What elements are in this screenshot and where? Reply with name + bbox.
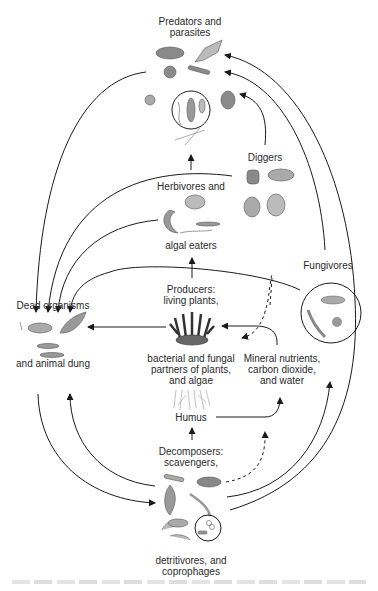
arrow-predators-to-dead bbox=[36, 72, 146, 312]
animal-dung-label: and animal dung bbox=[16, 358, 90, 369]
minerals-label: Mineral nutrients, carbon dioxide, and w… bbox=[244, 353, 321, 386]
herbivores-label-bottom: algal eaters bbox=[165, 240, 217, 251]
fungivores-illustration bbox=[301, 283, 361, 343]
arrow-humus-to-minerals bbox=[216, 398, 280, 417]
diggers-illustration bbox=[244, 169, 294, 217]
dead-organisms-label: Dead organisms bbox=[17, 300, 90, 311]
decomposers-label-top: Decomposers: scavengers, bbox=[159, 446, 223, 468]
diggers-label: Diggers bbox=[248, 152, 282, 163]
decomposers-illustration bbox=[162, 474, 221, 541]
dead-organisms-illustration bbox=[20, 312, 86, 358]
predators-label: Predators and parasites bbox=[159, 16, 222, 38]
predators-illustration bbox=[145, 40, 235, 145]
arrow-decomposers-to-minerals-dashed bbox=[226, 432, 265, 482]
arrow-dead-to-decomposers bbox=[38, 394, 155, 503]
arrow-decomposers-to-dead bbox=[70, 394, 155, 486]
herbivores-label-top: Herbivores and bbox=[157, 181, 225, 192]
illegible-caption bbox=[12, 580, 366, 584]
arrow-diggers-to-predators bbox=[240, 94, 266, 145]
producers-label-top: Producers: living plants, bbox=[163, 284, 218, 306]
arrow-decomposers-to-fungivores bbox=[227, 382, 330, 497]
herbivores-illustration bbox=[164, 195, 220, 233]
humus-label: Humus bbox=[175, 412, 207, 423]
producers-label-bottom: bacterial and fungal partners of plants,… bbox=[147, 353, 234, 386]
fungivores-label: Fungivores bbox=[303, 260, 352, 271]
decomposers-label-bottom: detritivores, and coprophages bbox=[155, 555, 226, 577]
arrow-diggers-to-producers-dashed bbox=[242, 275, 272, 338]
